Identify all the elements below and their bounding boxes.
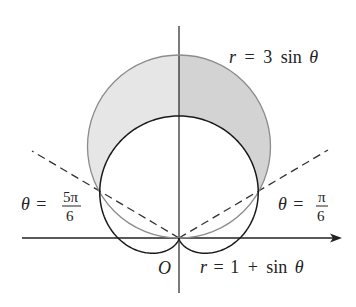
label-origin: O bbox=[158, 258, 171, 278]
svg-text:θ =: θ = bbox=[21, 194, 47, 214]
label-ray-pi-over-6: θ = π 6 bbox=[278, 189, 328, 224]
label-circle-equation: r = 3 sin θ bbox=[229, 47, 318, 67]
label-ray-5pi-over-6: θ = 5π 6 bbox=[21, 189, 81, 224]
fraction-denominator: 6 bbox=[66, 208, 74, 224]
fraction-numerator: π bbox=[318, 189, 326, 205]
label-cardioid-equation: r = 1 + sin θ bbox=[200, 257, 304, 277]
fraction-denominator: 6 bbox=[317, 208, 325, 224]
svg-text:θ =: θ = bbox=[278, 194, 304, 214]
fraction-numerator: 5π bbox=[63, 189, 79, 205]
polar-diagram: r = 3 sin θ r = 1 + sin θ O θ = 5π 6 θ =… bbox=[0, 0, 356, 307]
